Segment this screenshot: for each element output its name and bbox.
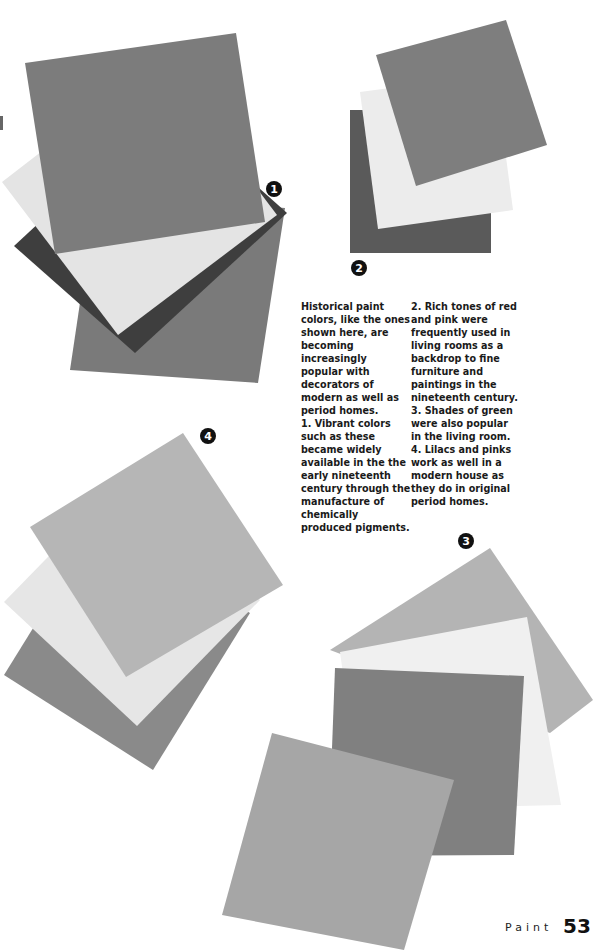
caption-column-right: 2. Rich tones of red and pink were frequ… <box>411 300 521 508</box>
caption-item-text: Vibrant colors such as these became wide… <box>301 418 410 533</box>
badge-1: 1 <box>266 181 282 197</box>
caption-item-text: Rich tones of red and pink were frequent… <box>411 301 518 403</box>
running-footer-section: Paint <box>505 921 552 934</box>
swatch <box>25 33 265 254</box>
swatch-group-2 <box>350 20 547 253</box>
caption-item-text: Shades of green were also popular in the… <box>411 405 513 442</box>
badge-2: 2 <box>351 260 367 276</box>
caption-item-4: 4. Lilacs and pinks work as well in a mo… <box>411 443 521 508</box>
caption-item-1: 1. Vibrant colors such as these became w… <box>301 417 411 534</box>
swatch-group-4 <box>4 433 283 770</box>
badge-4: 4 <box>200 428 216 444</box>
caption-item-number: 2. <box>411 301 421 312</box>
page-edge-mark <box>0 116 3 130</box>
caption-item-number: 3. <box>411 405 421 416</box>
caption-column-left: Historical paint colors, like the ones s… <box>301 300 411 534</box>
caption-item-3: 3. Shades of green were also popular in … <box>411 404 521 443</box>
badge-3: 3 <box>458 533 474 549</box>
caption-item-text: Lilacs and pinks work as well in a moder… <box>411 444 511 507</box>
caption-intro: Historical paint colors, like the ones s… <box>301 300 411 417</box>
page-number: 53 <box>563 914 591 938</box>
swatch-group-1 <box>2 33 287 383</box>
caption-item-2: 2. Rich tones of red and pink were frequ… <box>411 300 521 404</box>
caption-item-number: 1. <box>301 418 311 429</box>
caption-item-number: 4. <box>411 444 421 455</box>
swatch-group-3 <box>222 548 593 950</box>
